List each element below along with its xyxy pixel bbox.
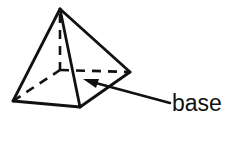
- callout-leader-line: [92, 82, 170, 103]
- pyramid-base-diagram: [0, 0, 231, 144]
- base-label: base: [172, 92, 222, 115]
